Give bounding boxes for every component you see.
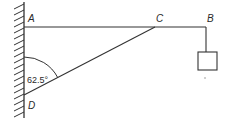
hanging-block xyxy=(198,52,217,70)
angle-label: 62.5° xyxy=(27,75,49,85)
label-b: B xyxy=(207,13,214,24)
wall-hatching xyxy=(14,4,24,117)
bracket-diagram: A C B D 62.5° xyxy=(0,0,229,122)
label-a: A xyxy=(27,13,35,24)
label-c: C xyxy=(156,13,164,24)
label-d: D xyxy=(28,100,35,111)
wall xyxy=(14,2,24,118)
